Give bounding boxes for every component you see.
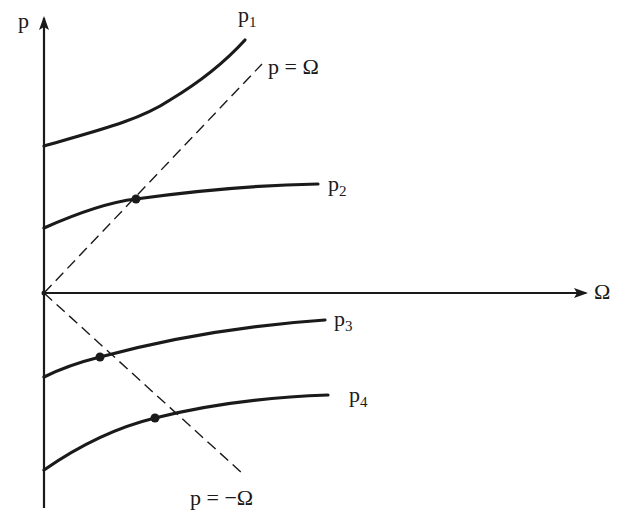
dashed-line-label-p-equals-minus-omega: p = −Ω (190, 487, 253, 509)
curve-label-p2-base: p (328, 171, 339, 196)
curve-label-p4-sub: 4 (360, 394, 368, 410)
curve-label-p3-sub: 3 (345, 318, 353, 334)
y-axis-label: p (18, 10, 29, 32)
dashed-line-p-equals-omega (44, 64, 262, 293)
curve-label-p4-base: p (349, 382, 360, 407)
curve-label-p3: p3 (334, 308, 353, 334)
curve-label-p1: p1 (238, 4, 257, 30)
curve-label-p1-base: p (238, 2, 249, 27)
curve-label-p3-base: p (334, 306, 345, 331)
curve-label-p4: p4 (349, 384, 368, 410)
curve-label-p2-sub: 2 (339, 183, 347, 199)
curve-p3 (44, 320, 325, 377)
curve-p4 (44, 395, 328, 470)
intersection-point-p4 (151, 414, 160, 423)
intersection-point-p2 (132, 195, 141, 204)
dashed-line-p-equals-minus-omega (44, 293, 243, 474)
curve-p2 (44, 184, 318, 228)
x-axis-label: Ω (594, 281, 610, 303)
intersection-point-p3 (96, 353, 105, 362)
dashed-line-label-p-equals-omega: p = Ω (268, 56, 319, 78)
curve-p1 (44, 40, 245, 146)
curve-label-p2: p2 (328, 173, 347, 199)
curve-label-p1-sub: 1 (249, 14, 257, 30)
origin-point (42, 291, 47, 296)
diagram-canvas (0, 0, 632, 529)
